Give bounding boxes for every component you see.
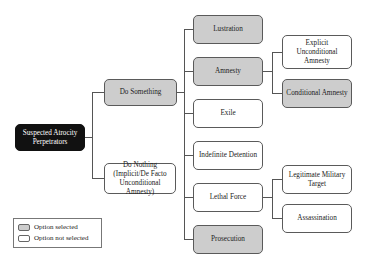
node-assassination: Assassination (282, 204, 352, 233)
node-explicit-unconditional-amnesty: Explicit Unconditional Amnesty (282, 35, 352, 69)
selected-swatch-icon (18, 224, 30, 231)
connector (92, 178, 104, 179)
connector (184, 29, 185, 240)
connector (184, 113, 193, 114)
connector (184, 197, 193, 198)
connector (263, 71, 272, 72)
node-label: Explicit Unconditional Amnesty (285, 39, 349, 66)
node-label: Lethal Force (210, 193, 247, 202)
node-label: Prosecution (211, 235, 245, 244)
node-exile: Exile (193, 99, 263, 128)
connector (184, 71, 193, 72)
node-lustration: Lustration (193, 15, 263, 44)
node-label: Do Something (120, 88, 162, 97)
node-label: Suspected Atrocity Perpetrators (18, 129, 82, 147)
connector (177, 92, 184, 93)
connector (85, 137, 92, 138)
legend: Option selected Option not selected (13, 218, 102, 248)
node-amnesty: Amnesty (193, 57, 263, 86)
node-label: Indefinite Detention (199, 151, 257, 160)
node-prosecution: Prosecution (193, 225, 263, 254)
node-label: Lustration (213, 25, 243, 34)
legend-label: Option selected (34, 223, 78, 231)
node-label: Legitimate Military Target (285, 171, 349, 189)
connector (263, 197, 272, 198)
legend-row-selected: Option selected (18, 223, 78, 231)
node-label: Amnesty (215, 67, 241, 76)
node-legitimate-military-target: Legitimate Military Target (282, 165, 352, 194)
connector (272, 218, 282, 219)
connector (184, 29, 193, 30)
not-selected-swatch-icon (18, 235, 30, 242)
node-do-nothing: Do Nothing (Implicit/De Facto Unconditio… (104, 163, 176, 194)
node-conditional-amnesty: Conditional Amnesty (282, 79, 352, 108)
connector (92, 92, 93, 179)
node-label: Assassination (297, 214, 337, 223)
connector (272, 179, 273, 219)
legend-row-not-selected: Option not selected (18, 234, 88, 242)
node-label: Do Nothing (Implicit/De Facto Unconditio… (107, 161, 173, 197)
connector (272, 93, 282, 94)
connector (184, 155, 193, 156)
node-lethal-force: Lethal Force (193, 183, 263, 212)
connector (92, 92, 104, 93)
connector (272, 179, 282, 180)
node-do-something: Do Something (104, 79, 177, 106)
node-label: Conditional Amnesty (286, 89, 347, 98)
connector (272, 52, 273, 94)
legend-label: Option not selected (34, 234, 88, 242)
node-indefinite-detention: Indefinite Detention (193, 141, 263, 170)
node-suspected-atrocity-perpetrators: Suspected Atrocity Perpetrators (15, 124, 85, 151)
connector (272, 52, 282, 53)
node-label: Exile (220, 109, 235, 118)
connector (184, 239, 193, 240)
